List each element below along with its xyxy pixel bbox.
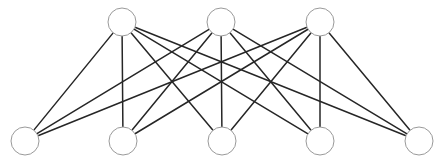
bottom-node-b4 (306, 127, 334, 155)
bottom-node-b3 (208, 127, 236, 155)
edge-t3-b1 (38, 27, 307, 136)
edge-t3-b5 (329, 33, 410, 130)
bipartite-graph-diagram (0, 0, 445, 163)
top-node-t2 (207, 8, 235, 36)
bottom-node-b2 (109, 127, 137, 155)
top-node-t3 (306, 8, 334, 36)
bottom-node-b5 (405, 127, 433, 155)
edges-group (34, 27, 410, 136)
edge-t1-b1 (34, 33, 113, 130)
bottom-node-b1 (11, 127, 39, 155)
top-node-t1 (108, 8, 136, 36)
